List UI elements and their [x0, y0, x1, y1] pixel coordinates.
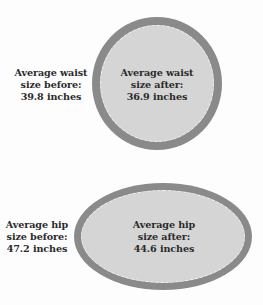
hip-before-label: Average hip size before: 47.2 inches — [0, 219, 74, 255]
waist-after-value: 36.9 inches — [110, 91, 204, 103]
hip-before-value: 47.2 inches — [0, 243, 74, 255]
hip-after-value: 44.6 inches — [118, 243, 210, 255]
hip-before-line-2: size before: — [0, 231, 74, 243]
waist-before-label: Average waist size before: 39.8 inches — [5, 67, 97, 103]
hip-after-label: Average hip size after: 44.6 inches — [118, 219, 210, 255]
hip-after-line-2: size after: — [118, 231, 210, 243]
hip-before-line-1: Average hip — [0, 219, 74, 231]
waist-after-label: Average waist size after: 36.9 inches — [110, 67, 204, 103]
hip-after-line-1: Average hip — [118, 219, 210, 231]
waist-before-line-2: size before: — [5, 79, 97, 91]
waist-after-line-2: size after: — [110, 79, 204, 91]
waist-before-line-1: Average waist — [5, 67, 97, 79]
waist-after-line-1: Average waist — [110, 67, 204, 79]
waist-before-value: 39.8 inches — [5, 91, 97, 103]
